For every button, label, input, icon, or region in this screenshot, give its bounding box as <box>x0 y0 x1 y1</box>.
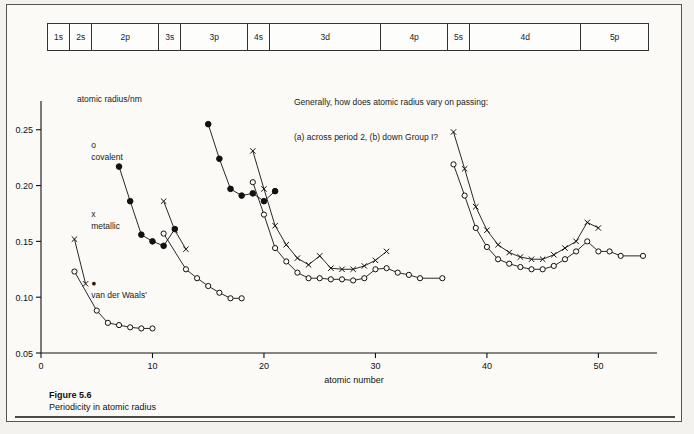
x-tick-label: 50 <box>593 361 603 371</box>
x-tick-label: 10 <box>147 361 157 371</box>
data-point-covalent <box>462 193 467 198</box>
y-tick-label: 0.10 <box>15 293 33 303</box>
data-point-covalent <box>105 320 110 325</box>
data-point-covalent <box>640 253 645 258</box>
data-point-covalent <box>161 231 166 236</box>
data-point-covalent <box>72 269 77 274</box>
data-point-covalent <box>440 276 445 281</box>
data-point-covalent <box>228 296 233 301</box>
data-point-metallic <box>161 198 166 203</box>
caption-title: Figure 5.6 <box>49 390 156 402</box>
data-point-vanderwaals <box>161 243 167 249</box>
data-point-metallic <box>585 220 590 225</box>
data-point-vanderwaals <box>250 191 256 197</box>
data-point-covalent <box>239 296 244 301</box>
data-point-metallic <box>306 262 311 267</box>
data-point-vanderwaals <box>239 193 245 199</box>
data-point-covalent <box>351 278 356 283</box>
series-line <box>253 182 443 280</box>
data-point-covalent <box>529 267 534 272</box>
data-point-metallic <box>284 242 289 247</box>
data-point-metallic <box>495 242 500 247</box>
data-point-metallic <box>250 148 255 153</box>
series-line <box>164 201 186 249</box>
data-point-covalent <box>518 264 523 269</box>
data-point-metallic <box>317 253 322 258</box>
y-tick-label: 0.15 <box>15 237 33 247</box>
data-point-metallic <box>373 258 378 263</box>
data-point-metallic <box>551 252 556 257</box>
data-point-covalent <box>417 276 422 281</box>
data-point-vanderwaals <box>139 232 145 238</box>
data-point-covalent <box>574 249 579 254</box>
data-point-covalent <box>194 276 199 281</box>
data-point-covalent <box>373 267 378 272</box>
data-point-covalent <box>473 225 478 230</box>
data-point-covalent <box>339 277 344 282</box>
data-point-vanderwaals <box>150 239 156 245</box>
data-point-vanderwaals <box>116 164 122 170</box>
data-point-covalent <box>607 249 612 254</box>
data-point-covalent <box>618 253 623 258</box>
data-point-vanderwaals <box>217 156 223 162</box>
data-point-vanderwaals <box>261 198 267 204</box>
data-point-vanderwaals <box>272 188 278 194</box>
data-point-metallic <box>451 129 456 134</box>
series-line <box>253 151 387 269</box>
x-tick-label: 40 <box>482 361 492 371</box>
data-point-covalent <box>328 277 333 282</box>
data-point-covalent <box>183 267 188 272</box>
data-point-covalent <box>206 283 211 288</box>
data-point-covalent <box>384 266 389 271</box>
data-point-covalent <box>94 308 99 313</box>
data-point-metallic <box>462 166 467 171</box>
data-point-covalent <box>495 257 500 262</box>
data-point-metallic <box>261 186 266 191</box>
data-point-covalent <box>585 239 590 244</box>
data-point-metallic <box>362 263 367 268</box>
y-tick-label: 0.20 <box>15 181 33 191</box>
data-point-covalent <box>250 180 255 185</box>
data-point-vanderwaals <box>172 226 178 232</box>
data-point-vanderwaals <box>228 186 234 192</box>
data-point-metallic <box>183 246 188 251</box>
data-point-covalent <box>261 212 266 217</box>
data-point-covalent <box>395 270 400 275</box>
data-point-metallic <box>507 250 512 255</box>
data-point-covalent <box>596 249 601 254</box>
atomic-radius-chart: 0.050.100.150.200.2501020304050atomic nu… <box>7 5 683 423</box>
data-point-covalent <box>451 162 456 167</box>
figure-caption: Figure 5.6 Periodicity in atomic radius <box>49 390 156 413</box>
data-point-covalent <box>150 326 155 331</box>
x-tick-label: 0 <box>38 361 43 371</box>
series-line <box>74 272 152 329</box>
data-point-covalent <box>317 276 322 281</box>
data-point-covalent <box>562 257 567 262</box>
data-point-covalent <box>484 244 489 249</box>
series-line <box>164 234 242 299</box>
y-tick-label: 0.25 <box>15 125 33 135</box>
series-covalent <box>72 162 646 331</box>
data-point-metallic <box>384 249 389 254</box>
x-tick-label: 30 <box>370 361 380 371</box>
data-point-metallic <box>596 225 601 230</box>
data-point-metallic <box>484 228 489 233</box>
data-point-covalent <box>217 290 222 295</box>
series-line <box>74 239 85 284</box>
data-point-metallic <box>562 245 567 250</box>
data-point-covalent <box>551 263 556 268</box>
figure-frame: 1s2s2p3s3p4s3d4p5s4d5p atomic radius/nm … <box>6 4 682 422</box>
series-metallic <box>72 129 601 286</box>
data-point-covalent <box>139 326 144 331</box>
series-line <box>453 164 643 269</box>
data-point-covalent <box>540 267 545 272</box>
data-point-covalent <box>507 261 512 266</box>
caption-text: Periodicity in atomic radius <box>49 402 156 414</box>
data-point-covalent <box>295 270 300 275</box>
data-point-covalent <box>306 276 311 281</box>
data-point-covalent <box>362 276 367 281</box>
data-point-covalent <box>116 322 121 327</box>
y-tick-label: 0.05 <box>15 349 33 359</box>
data-point-metallic <box>272 223 277 228</box>
data-point-metallic <box>473 204 478 209</box>
